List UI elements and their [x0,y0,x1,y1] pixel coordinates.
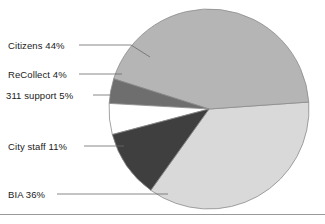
pie-label-city-staff: City staff 11% [8,141,67,152]
pie-label-311-support: 311 support 5% [6,90,73,101]
pie-label-citizens: Citizens 44% [8,40,65,51]
pie-label-bia: BIA 36% [8,189,45,200]
pie-label-recollect: ReCollect 4% [8,69,67,80]
footer-divider [0,214,325,215]
pie-chart-figure: Citizens 44% ReCollect 4% 311 support 5%… [0,0,325,224]
pie-chart-graphic [0,0,325,224]
